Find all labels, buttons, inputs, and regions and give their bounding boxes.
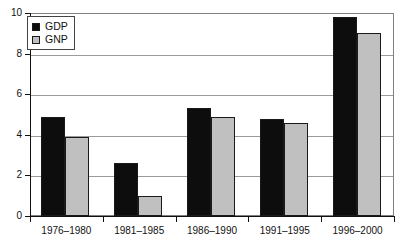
y-axis-tick-10 [25,13,30,14]
bar-gdp-1996–2000 [333,17,357,216]
bar-gdp-1981–1985 [114,163,138,216]
x-axis-label-1996–2000: 1996–2000 [321,225,394,236]
legend-swatch-gdp-icon [32,23,40,31]
bar-gnp-1986–1990 [211,117,235,216]
y-axis-tick-6 [25,94,30,95]
x-axis-tick-end [394,217,395,222]
x-axis-tick-4 [321,217,322,222]
legend-swatch-gnp-icon [32,36,40,44]
y-axis-label-2: 2 [0,170,22,180]
y-axis-label-6: 6 [0,89,22,99]
bar-gdp-1986–1990 [187,108,211,216]
bar-gnp-1981–1985 [138,196,162,216]
x-axis-line [30,216,395,217]
bar-gdp-1991–1995 [260,119,284,216]
y-axis-label-10: 10 [0,8,22,18]
bar-gnp-1976–1980 [65,137,89,216]
y-axis-label-4: 4 [0,130,22,140]
y-axis-tick-4 [25,135,30,136]
x-axis-tick-1 [103,217,104,222]
x-axis-tick-2 [176,217,177,222]
bar-chart: GDP GNP 02468101976–19801981–19851986–19… [0,0,410,249]
x-axis-tick-0 [30,217,31,222]
y-axis-tick-2 [25,175,30,176]
y-axis-tick-8 [25,54,30,55]
x-axis-label-1981–1985: 1981–1985 [103,225,176,236]
bar-gnp-1996–2000 [357,33,381,216]
y-axis-label-8: 8 [0,49,22,59]
chart-legend: GDP GNP [27,16,75,50]
legend-label-gnp: GNP [45,34,68,45]
x-axis-tick-3 [248,217,249,222]
x-axis-label-1986–1990: 1986–1990 [176,225,249,236]
y-axis-label-0: 0 [0,211,22,221]
x-axis-label-1991–1995: 1991–1995 [248,225,321,236]
bar-gnp-1991–1995 [284,123,308,216]
legend-label-gdp: GDP [45,21,68,32]
legend-item-gdp: GDP [32,20,68,33]
bar-gdp-1976–1980 [41,117,65,216]
legend-item-gnp: GNP [32,33,68,46]
x-axis-label-1976–1980: 1976–1980 [30,225,103,236]
